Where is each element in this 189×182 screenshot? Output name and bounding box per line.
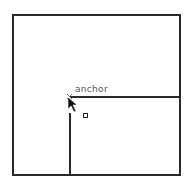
anchor-label: anchor	[75, 84, 108, 94]
horizontal-wall-line[interactable]	[70, 96, 179, 98]
outer-rectangle[interactable]	[12, 14, 181, 176]
mouse-pointer-icon	[68, 97, 80, 113]
vertical-wall-line[interactable]	[69, 113, 71, 174]
drawing-canvas[interactable]: anchor	[0, 0, 189, 182]
cursor-square-badge-icon	[83, 113, 88, 118]
